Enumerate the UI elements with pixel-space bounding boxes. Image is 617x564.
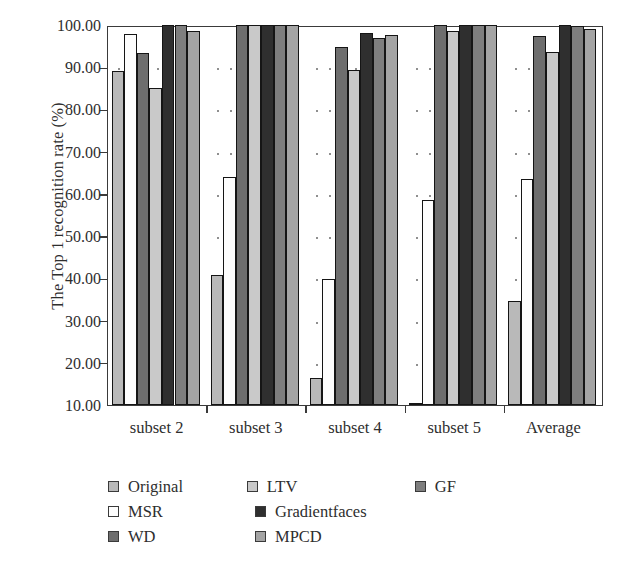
bar [485,25,498,405]
y-axis-tick-label: 50.00 [9,228,101,246]
bar-group [505,27,604,405]
legend-row: OriginalLTVGF [108,474,528,499]
bar [335,47,348,405]
y-axis-tick-label: 100.00 [9,17,101,35]
legend-row: MSRGradientfaces [108,499,528,524]
legend-item[interactable]: GF [415,477,528,497]
x-axis-tick-mark [206,406,208,413]
legend-swatch-icon [247,481,258,492]
bar [409,403,422,405]
bar [223,177,236,405]
bar-group [207,27,306,405]
bar [584,29,597,405]
x-axis-tick-label: subset 3 [229,418,283,438]
y-axis-tick-label: 80.00 [9,101,101,119]
legend-label: Gradientfaces [275,502,367,522]
bar [149,88,162,405]
legend-item[interactable]: LTV [247,477,415,497]
x-axis-tick-mark [504,406,506,413]
bar [434,25,447,405]
bar [571,26,584,405]
x-axis-tick-label: subset 4 [328,418,382,438]
bar [236,25,249,405]
bar [373,38,386,405]
bar-group [108,27,207,405]
legend-item[interactable]: Gradientfaces [255,502,433,522]
legend-swatch-icon [108,531,119,542]
legend-row: WDMPCD [108,524,528,549]
legend-item[interactable]: MSR [108,502,255,522]
bar [310,378,323,405]
legend-label: MPCD [275,527,322,547]
chart-legend: OriginalLTVGFMSRGradientfacesWDMPCD [108,474,528,549]
y-axis-tick-mark [99,194,107,195]
legend-item[interactable]: MPCD [255,527,433,547]
legend-item[interactable]: WD [108,527,255,547]
y-axis-tick-mark [99,321,107,322]
bar [385,35,398,405]
plot-area [107,26,603,406]
x-axis-tick-label: subset 2 [130,418,184,438]
bar [508,301,521,405]
legend-item[interactable]: Original [108,477,247,497]
bar [261,25,274,405]
y-axis-tick-mark [99,68,107,69]
legend-label: LTV [267,477,298,497]
bar [447,31,460,405]
bar [546,52,559,405]
x-axis-tick-mark [305,406,307,413]
y-axis-tick-label: 90.00 [9,59,101,77]
legend-swatch-icon [255,531,266,542]
legend-label: GF [435,477,456,497]
bar [422,200,435,405]
legend-swatch-icon [415,481,426,492]
bar-group [406,27,505,405]
bar-chart-figure: The Top 1 recognition rate (%) 10.0020.0… [0,0,617,564]
bar [322,279,335,405]
x-axis-tick-label: Average [526,418,581,438]
y-axis-tick-mark [99,236,107,237]
bar [559,25,572,405]
y-axis-tick-label: 60.00 [9,186,101,204]
x-axis-tick-label: subset 5 [427,418,481,438]
y-axis-tick-label: 30.00 [9,313,101,331]
bar [175,25,188,405]
legend-label: MSR [128,502,163,522]
bar [459,25,472,405]
bar [533,36,546,405]
y-axis-tick-mark [99,152,107,153]
bar [472,25,485,405]
y-axis-tick-mark [99,279,107,280]
y-axis-tick-mark [99,110,107,111]
y-axis-tick-label: 10.00 [9,397,101,415]
bar [137,53,150,405]
y-axis-tick-label: 20.00 [9,355,101,373]
legend-label: Original [128,477,183,497]
bar [187,31,200,406]
legend-label: WD [128,527,156,547]
y-axis-tick-labels: 10.0020.0030.0040.0050.0060.0070.0080.00… [0,0,101,564]
legend-swatch-icon [108,481,119,492]
bar [286,25,299,405]
legend-swatch-icon [255,506,266,517]
bar [521,179,534,405]
bar [348,70,361,405]
bar [211,275,224,405]
bar [274,25,287,405]
bar [124,34,137,405]
bar [162,25,175,405]
legend-swatch-icon [108,506,119,517]
y-axis-tick-label: 40.00 [9,270,101,288]
bar-group [306,27,405,405]
y-axis-tick-label: 70.00 [9,144,101,162]
bar [112,71,125,405]
x-axis-tick-mark [405,406,407,413]
bar [360,33,373,405]
y-axis-tick-mark [99,363,107,364]
bar [248,25,261,405]
